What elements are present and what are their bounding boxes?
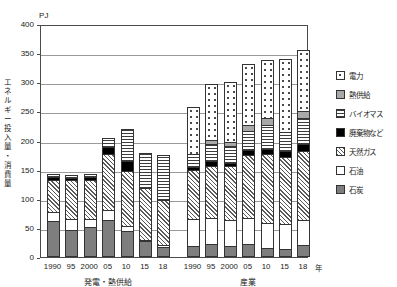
bar-発電・熱供給-05[interactable] [102,24,115,257]
bar-産業-1990[interactable] [187,24,200,257]
y-axis-tick-label: 300 [8,78,34,87]
bar-産業-15[interactable] [279,24,292,257]
bar-segment-gas [187,170,200,218]
bar-segment-oil [139,240,152,241]
bar-segment-coal [187,246,200,257]
legend: 電力熱供給バイオマス廃棄物など天然ガス石油石炭 [336,66,396,199]
y-axis-tick [37,229,40,230]
bar-segment-waste [224,163,237,166]
bar-segment-bio [187,154,200,166]
y-axis-tick [37,200,40,201]
y-axis-tick [37,54,40,55]
bar-segment-waste [205,161,218,165]
legend-swatch-oil [336,166,345,175]
bar-segment-elec [261,60,274,118]
bar-産業-2000[interactable] [224,24,237,257]
legend-item-bio[interactable]: バイオマス [336,104,396,123]
bar-segment-coal [65,230,78,257]
legend-item-elec[interactable]: 電力 [336,66,396,85]
bar-産業-95[interactable] [205,24,218,257]
bar-発電・熱供給-15[interactable] [139,24,152,257]
legend-label: 電力 [349,70,363,81]
bar-segment-bio [65,175,78,177]
bar-segment-coal [297,245,310,257]
plot-area [40,25,308,258]
bar-segment-oil [187,219,200,246]
bar-segment-bio [121,129,134,161]
bar-発電・熱供給-18[interactable] [157,24,170,257]
bar-segment-oil [47,212,60,221]
y-axis-tick-label: 350 [8,49,34,58]
bar-segment-elec [224,82,237,141]
legend-item-coal[interactable]: 石炭 [336,180,396,199]
bar-segment-gas [139,188,152,240]
bar-segment-heat [205,140,218,144]
legend-item-waste[interactable]: 廃棄物など [336,123,396,142]
y-axis-title-char: ル [1,96,13,105]
bar-segment-elec [297,50,310,111]
legend-label: 熱供給 [349,89,369,100]
bar-segment-bio [139,153,152,188]
y-axis-unit: PJ [39,11,49,20]
y-axis-tick-label: 400 [8,20,34,29]
bar-segment-gas [157,200,170,245]
y-axis-tick-label: 0 [8,253,34,262]
group-title-発電・熱供給: 発電・熱供給 [63,276,153,287]
bar-segment-heat [297,111,310,119]
bar-segment-oil [121,226,134,232]
legend-label: 石油 [349,165,363,176]
bar-発電・熱供給-95[interactable] [65,24,78,257]
bar-産業-18[interactable] [297,24,310,257]
bar-産業-05[interactable] [242,24,255,257]
bar-segment-oil [261,223,274,248]
bar-産業-10[interactable] [261,24,274,257]
bar-segment-coal [139,241,152,257]
bar-segment-elec [242,64,255,126]
bar-segment-bio [297,118,310,144]
legend-item-gas[interactable]: 天然ガス [336,142,396,161]
bar-segment-oil [279,224,292,249]
bar-発電・熱供給-10[interactable] [121,24,134,257]
bar-segment-coal [121,231,134,257]
bar-segment-waste [261,149,274,154]
bar-segment-bio [205,144,218,161]
y-axis-tick-label: 100 [8,195,34,204]
x-axis-tick-label: 18 [289,262,317,271]
bar-segment-elec [205,84,218,140]
bar-segment-elec [187,107,200,154]
bar-segment-bio [279,132,292,151]
legend-item-oil[interactable]: 石油 [336,161,396,180]
legend-item-heat[interactable]: 熱供給 [336,85,396,104]
legend-label: 天然ガス [349,146,376,157]
bar-segment-oil [297,220,310,245]
bar-segment-oil [205,218,218,244]
bar-segment-coal [157,247,170,257]
bar-発電・熱供給-1990[interactable] [47,24,60,257]
bar-segment-waste [121,161,134,171]
bar-segment-bio [261,125,274,149]
bar-segment-gas [261,154,274,223]
y-axis-tick-label: 250 [8,107,34,116]
bar-segment-gas [65,180,78,219]
bar-segment-gas [47,180,60,212]
x-axis-tick-label: 18 [149,262,177,271]
y-axis-tick [37,112,40,113]
bar-segment-waste [242,150,255,155]
group-title-産業: 産業 [203,276,293,287]
bar-segment-bio [224,146,237,163]
bar-segment-oil [242,218,255,244]
bar-segment-bio [157,155,170,200]
bar-segment-gas [102,154,115,211]
bar-segment-coal [261,248,274,257]
bar-発電・熱供給-2000[interactable] [84,24,97,257]
bar-segment-bio [102,138,115,148]
bar-segment-oil [84,219,97,228]
y-axis-tick [37,25,40,26]
bar-segment-coal [47,221,60,257]
legend-swatch-elec [336,71,345,80]
bar-segment-coal [279,249,292,257]
y-axis-tick [37,83,40,84]
bar-segment-waste [84,177,97,180]
bar-segment-gas [121,171,134,226]
